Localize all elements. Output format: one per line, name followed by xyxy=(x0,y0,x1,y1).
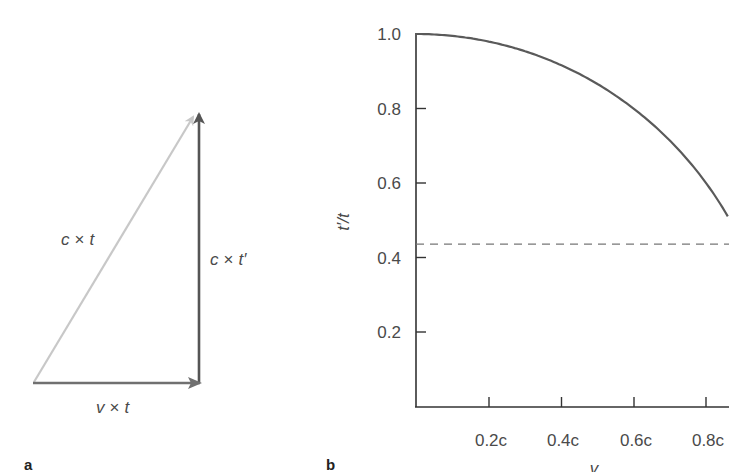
svg-text:0.4c: 0.4c xyxy=(547,431,580,450)
y-axis-label: t′/t xyxy=(334,212,353,231)
label-c-times-t-prime: c×t′ xyxy=(210,250,247,269)
x-ticks xyxy=(489,397,706,407)
svg-text:0.2c: 0.2c xyxy=(475,431,508,450)
panel-a-triangle: c×t c×t′ v×t a xyxy=(24,114,247,472)
panel-label-b: b xyxy=(326,456,335,472)
figure: c×t c×t′ v×t a 1.0 0.8 0.6 0.4 0.2 xyxy=(0,0,729,472)
label-c-times-t: c×t xyxy=(61,230,95,249)
time-dilation-curve xyxy=(416,34,728,216)
svg-text:0.8c: 0.8c xyxy=(692,431,725,450)
svg-text:0.6: 0.6 xyxy=(377,174,401,193)
hypotenuse-arrow-c-times-t xyxy=(34,117,193,382)
panel-b-chart: 1.0 0.8 0.6 0.4 0.2 0.2c 0.4c 0.6c 0.8c … xyxy=(326,25,729,472)
svg-text:1.0: 1.0 xyxy=(377,25,401,44)
label-v-times-t: v×t xyxy=(96,398,130,417)
svg-text:0.4: 0.4 xyxy=(377,249,401,268)
y-tick-labels: 1.0 0.8 0.6 0.4 0.2 xyxy=(377,25,401,342)
x-axis-label: v xyxy=(590,459,600,472)
svg-text:0.8: 0.8 xyxy=(377,100,401,119)
svg-text:0.6c: 0.6c xyxy=(620,431,653,450)
panel-label-a: a xyxy=(24,456,33,472)
svg-text:0.2: 0.2 xyxy=(377,323,401,342)
x-tick-labels: 0.2c 0.4c 0.6c 0.8c xyxy=(475,431,725,450)
y-ticks xyxy=(416,34,426,332)
